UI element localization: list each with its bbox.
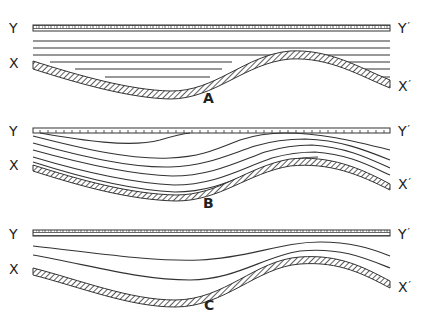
prime-mark: ′ — [408, 123, 411, 136]
stratigraphy-diagram — [0, 0, 429, 322]
top-surface-y — [33, 25, 390, 31]
label-text: X — [398, 176, 408, 192]
panel-label-c: C — [204, 298, 214, 312]
label-x-prime-b: X′ — [398, 177, 411, 191]
label-x-a: X — [9, 56, 19, 70]
label-x-c: X — [9, 262, 19, 276]
panel-a — [33, 25, 390, 99]
prime-mark: ′ — [409, 78, 412, 91]
label-x-prime-c: X′ — [398, 280, 411, 294]
label-x-b: X — [9, 158, 19, 172]
label-text: Y — [398, 123, 407, 139]
label-y-c: Y — [9, 227, 18, 241]
panel-b — [33, 128, 390, 201]
label-y-prime-b: Y′ — [398, 124, 410, 138]
label-x-prime-a: X′ — [398, 79, 411, 93]
label-y-prime-c: Y′ — [398, 227, 410, 241]
top-surface-y — [33, 128, 390, 133]
prime-mark: ′ — [408, 226, 411, 239]
prime-mark: ′ — [409, 176, 412, 189]
label-text: X — [398, 279, 408, 295]
prime-mark: ′ — [409, 279, 412, 292]
label-y-prime-a: Y′ — [398, 21, 410, 35]
prime-mark: ′ — [408, 20, 411, 33]
panel-c — [33, 230, 390, 307]
label-y-b: Y — [9, 124, 18, 138]
label-text: X — [398, 78, 408, 94]
top-surface-y — [33, 230, 390, 236]
label-text: Y — [398, 20, 407, 36]
panel-label-b: B — [203, 196, 214, 210]
label-text: Y — [398, 226, 407, 242]
label-y-a: Y — [9, 21, 18, 35]
panel-label-a: A — [203, 91, 214, 105]
